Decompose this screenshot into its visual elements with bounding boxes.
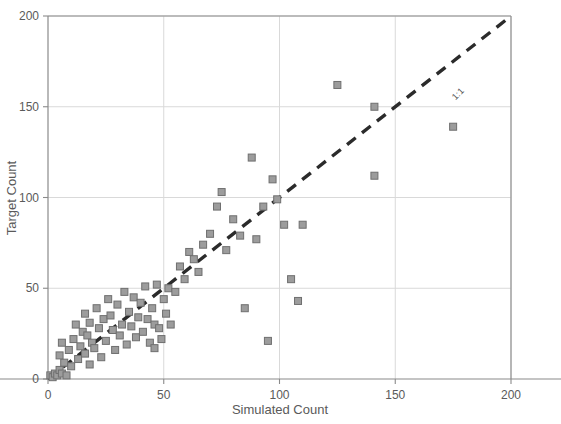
data-point [288,276,295,283]
data-point [107,312,114,319]
data-point [58,339,65,346]
data-point [86,319,93,326]
data-point [207,230,214,237]
y-axis-title: Target Count [4,160,19,235]
y-tick-label: 200 [19,9,39,23]
data-point [77,343,84,350]
data-point [223,247,230,254]
data-point [93,305,100,312]
data-point [82,350,89,357]
x-axis-title: Simulated Count [232,402,328,417]
data-point [371,172,378,179]
data-point [158,336,165,343]
data-point [91,345,98,352]
data-point [299,221,306,228]
data-point [65,346,72,353]
data-point [269,176,276,183]
data-point [176,263,183,270]
data-point [241,305,248,312]
data-point [100,316,107,323]
data-point [56,352,63,359]
data-point [105,296,112,303]
data-point [130,294,137,301]
scatter-plot-figure: 050100150200050100150200 Simulated Count… [0,0,561,424]
data-point [260,203,267,210]
plot-canvas: 050100150200050100150200 Simulated Count… [0,0,561,424]
data-point [295,297,302,304]
data-point [75,356,82,363]
data-point [163,310,170,317]
x-tick-label: 150 [385,388,405,402]
data-point [149,305,156,312]
data-point [181,276,188,283]
data-point [139,328,146,335]
data-point [450,123,457,130]
data-point [132,334,139,341]
data-point [63,372,70,379]
data-point [121,288,128,295]
data-point [109,326,116,333]
data-point [230,216,237,223]
data-point [144,316,151,323]
data-point [200,241,207,248]
data-point [160,296,167,303]
data-point [142,283,149,290]
data-point [237,232,244,239]
x-tick-label: 0 [45,388,52,402]
reference-line-label: 1:1 [450,86,466,102]
data-point [195,268,202,275]
x-tick-label: 50 [157,388,171,402]
data-point [102,337,109,344]
data-point [371,103,378,110]
data-point [151,345,158,352]
data-point [82,310,89,317]
x-tick-label: 200 [501,388,521,402]
y-tick-label: 50 [26,281,40,295]
data-point [190,256,197,263]
data-point [98,354,105,361]
data-point [156,325,163,332]
data-point [135,314,142,321]
data-point [218,189,225,196]
data-point [116,332,123,339]
data-point [248,154,255,161]
data-point [84,332,91,339]
x-tick-label: 100 [269,388,289,402]
data-point [114,301,121,308]
data-point [95,325,102,332]
y-tick-label: 100 [19,191,39,205]
data-point [72,321,79,328]
data-point [281,221,288,228]
data-point [137,299,144,306]
data-point [165,285,172,292]
data-point [213,203,220,210]
data-point [172,288,179,295]
data-point [264,337,271,344]
data-point [70,336,77,343]
data-point [167,321,174,328]
data-point [119,321,126,328]
data-point [128,323,135,330]
data-point [61,359,68,366]
data-point [186,248,193,255]
data-point [253,236,260,243]
y-tick-label: 0 [32,372,39,386]
y-tick-label: 150 [19,100,39,114]
data-point [86,361,93,368]
data-point [123,341,130,348]
data-point [126,308,133,315]
data-point [334,81,341,88]
data-point [274,196,281,203]
data-point [153,281,160,288]
data-point [68,363,75,370]
data-point [112,346,119,353]
